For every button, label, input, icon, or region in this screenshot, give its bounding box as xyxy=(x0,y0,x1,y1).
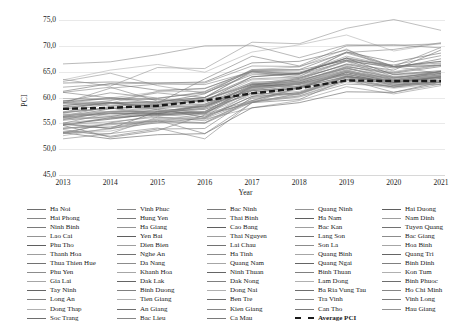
legend-item[interactable]: Thanh Hoa xyxy=(27,250,96,259)
y-tick-label: 50,0 xyxy=(18,145,56,153)
legend-item[interactable]: Ho Chi Minh xyxy=(382,286,443,295)
legend-item[interactable]: Binh Dinh xyxy=(382,259,443,268)
legend-item[interactable]: Dong Nai xyxy=(207,286,267,295)
legend-line-swatch-icon xyxy=(295,206,314,214)
legend-line-swatch-icon xyxy=(295,224,314,232)
legend-label: Khanh Hoa xyxy=(140,268,172,277)
legend-item[interactable]: Tien Giang xyxy=(117,295,174,304)
legend-line-swatch-icon xyxy=(117,233,136,241)
legend-item[interactable]: Lam Dong xyxy=(295,277,366,286)
legend-item[interactable]: Quang Binh xyxy=(295,250,366,259)
legend-label: Dong Thap xyxy=(50,305,82,314)
legend-item[interactable]: Dong Thap xyxy=(27,305,96,314)
legend-item[interactable]: Lai Chau xyxy=(207,241,267,250)
legend-item[interactable]: Ha Nam xyxy=(295,214,366,223)
legend-item[interactable]: Thua Thien Hue xyxy=(27,259,96,268)
legend-item[interactable]: Long An xyxy=(27,295,96,304)
legend-item[interactable]: Phu Tho xyxy=(27,241,96,250)
legend-label: Ha Tinh xyxy=(230,250,253,259)
legend-item[interactable]: Cao Bang xyxy=(207,223,267,232)
legend-item[interactable]: Ha Noi xyxy=(27,205,96,214)
legend-item[interactable]: Binh Phuoc xyxy=(382,277,443,286)
legend-label: Lam Dong xyxy=(318,277,348,286)
legend-label: Bac Ninh xyxy=(230,205,257,214)
legend-item[interactable]: Da Nang xyxy=(117,259,174,268)
legend-line-swatch-icon xyxy=(382,305,401,313)
chart-legend: Ha NoiHai PhongNinh BinhLao CaiPhu ThoTh… xyxy=(0,205,469,336)
legend-item[interactable]: Gia Lai xyxy=(27,277,96,286)
legend-item[interactable]: Phu Yen xyxy=(27,268,96,277)
legend-column: Hai DuongNam DinhTuyen QuangBac GiangHoa… xyxy=(382,205,443,314)
legend-item[interactable]: Lang Son xyxy=(295,232,366,241)
legend-line-swatch-icon xyxy=(27,296,46,304)
legend-item[interactable]: Vinh Phuc xyxy=(117,205,174,214)
legend-item[interactable]: Quang Nam xyxy=(207,259,267,268)
legend-item[interactable]: Kon Tum xyxy=(382,268,443,277)
legend-line-swatch-icon xyxy=(27,287,46,295)
legend-line-swatch-icon xyxy=(27,278,46,286)
legend-item[interactable]: Bac Lieu xyxy=(117,314,174,323)
legend-item[interactable]: Yen Bai xyxy=(117,232,174,241)
legend-item[interactable]: Ca Mau xyxy=(207,314,267,323)
legend-item[interactable]: Bac Kan xyxy=(295,223,366,232)
x-tick-label: 2020 xyxy=(372,178,416,187)
legend-item[interactable]: Khanh Hoa xyxy=(117,268,174,277)
y-tick-label: 55,0 xyxy=(18,119,56,127)
legend-item[interactable]: Ben Tre xyxy=(207,295,267,304)
legend-item[interactable]: An Giang xyxy=(117,305,174,314)
legend-item[interactable]: Hai Phong xyxy=(27,214,96,223)
legend-column: Ha NoiHai PhongNinh BinhLao CaiPhu ThoTh… xyxy=(27,205,96,323)
legend-item[interactable]: Dak Lak xyxy=(117,277,174,286)
legend-label: Bac Giang xyxy=(405,232,435,241)
legend-label: Bac Kan xyxy=(318,223,342,232)
x-tick-label: 2016 xyxy=(183,178,227,187)
legend-item[interactable]: Kien Giang xyxy=(207,305,267,314)
legend-item[interactable]: Thai Nguyen xyxy=(207,232,267,241)
legend-label: Tay Ninh xyxy=(50,286,76,295)
legend-line-swatch-icon xyxy=(207,305,226,313)
legend-item[interactable]: Bac Ninh xyxy=(207,205,267,214)
legend-item[interactable]: Quang Ninh xyxy=(295,205,366,214)
legend-item[interactable]: Hoa Binh xyxy=(382,241,443,250)
legend-item[interactable]: Ninh Thuan xyxy=(207,268,267,277)
legend-column: Quang NinhHa NamBac KanLang SonSon LaQua… xyxy=(295,205,366,323)
legend-label: Quang Ninh xyxy=(318,205,352,214)
legend-item[interactable]: Nghe An xyxy=(117,250,174,259)
legend-dashed-swatch-icon xyxy=(295,314,314,322)
x-axis-title: Year xyxy=(0,188,469,197)
legend-line-swatch-icon xyxy=(117,242,136,250)
legend-item[interactable]: Binh Duong xyxy=(117,286,174,295)
chart-page: PCI 75,070,065,060,055,050,045,0 2013201… xyxy=(0,0,469,336)
legend-item[interactable]: Average PCI xyxy=(295,314,366,323)
legend-item[interactable]: Dien Bien xyxy=(117,241,174,250)
legend-item[interactable]: Son La xyxy=(295,241,366,250)
legend-label: Tuyen Quang xyxy=(405,223,443,232)
legend-line-swatch-icon xyxy=(27,215,46,223)
legend-item[interactable]: Thai Binh xyxy=(207,214,267,223)
legend-item[interactable]: Tay Ninh xyxy=(27,286,96,295)
legend-item[interactable]: Nam Dinh xyxy=(382,214,443,223)
legend-item[interactable]: Vinh Long xyxy=(382,295,443,304)
legend-item[interactable]: Hai Duong xyxy=(382,205,443,214)
legend-item[interactable]: Soc Trang xyxy=(27,314,96,323)
legend-line-swatch-icon xyxy=(295,269,314,277)
legend-item[interactable]: Tra Vinh xyxy=(295,295,366,304)
legend-item[interactable]: Tuyen Quang xyxy=(382,223,443,232)
legend-item[interactable]: Ha Tinh xyxy=(207,250,267,259)
legend-item[interactable]: Hung Yen xyxy=(117,214,174,223)
legend-item[interactable]: Quang Ngai xyxy=(295,259,366,268)
legend-label: Long An xyxy=(50,295,75,304)
legend-item[interactable]: Ha Giang xyxy=(117,223,174,232)
legend-item[interactable]: Ba Ria Vung Tau xyxy=(295,286,366,295)
legend-item[interactable]: Hau Giang xyxy=(382,305,443,314)
legend-item[interactable]: Binh Thuan xyxy=(295,268,366,277)
legend-item[interactable]: Dak Nong xyxy=(207,277,267,286)
legend-item[interactable]: Ninh Binh xyxy=(27,223,96,232)
legend-item[interactable]: Quang Tri xyxy=(382,250,443,259)
legend-item[interactable]: Can Tho xyxy=(295,305,366,314)
legend-item[interactable]: Bac Giang xyxy=(382,232,443,241)
legend-item[interactable]: Lao Cai xyxy=(27,232,96,241)
legend-line-swatch-icon xyxy=(207,296,226,304)
legend-line-swatch-icon xyxy=(295,260,314,268)
legend-line-swatch-icon xyxy=(117,206,136,214)
